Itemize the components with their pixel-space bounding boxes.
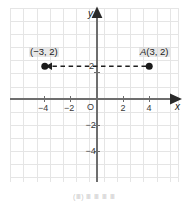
x-tick-label-pos2: 2 — [121, 104, 126, 113]
x-axis — [10, 94, 182, 105]
x-axis-label: x — [175, 102, 180, 112]
y-tick-label-neg4: −4 — [86, 147, 96, 156]
coordinate-plane-figure: −4 −2 2 4 O 2 −2 −4 x y (−3, 2) A(3, 2) … — [0, 0, 188, 201]
point-right-label: A(3, 2) — [139, 47, 170, 57]
coordinate-plane-svg — [0, 0, 188, 201]
y-tick-label-neg2: −2 — [86, 121, 96, 130]
grid-lines — [11, 8, 178, 182]
x-tick-label-neg4: −4 — [38, 104, 48, 113]
figure-caption: (Ⅲ) Ⅲ Ⅲ Ⅲ Ⅲ — [0, 193, 188, 201]
origin-label: O — [87, 103, 94, 112]
point-left-marker — [41, 63, 48, 70]
y-tick-label-pos2: 2 — [89, 62, 94, 71]
point-left-label: (−3, 2) — [29, 47, 59, 57]
point-right-marker — [146, 63, 153, 70]
point-right-label-rest: (3, 2) — [146, 46, 168, 57]
y-axis-label: y — [88, 9, 93, 19]
x-tick-label-neg2: −2 — [64, 104, 74, 113]
x-tick-label-pos4: 4 — [147, 104, 152, 113]
